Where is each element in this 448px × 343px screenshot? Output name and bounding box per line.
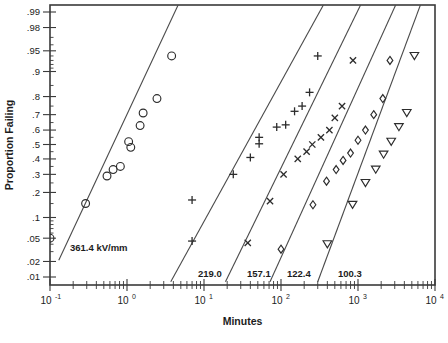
y-tick-label: .9 xyxy=(32,66,40,77)
data-points-group xyxy=(46,52,419,253)
x-axis-ticks-group: 10-1100101102103104 xyxy=(40,279,444,306)
data-point-diamond xyxy=(363,126,369,134)
data-point-circle xyxy=(109,166,117,174)
y-tick-label: .4 xyxy=(32,153,40,164)
data-point-triangle-down xyxy=(371,166,380,173)
y-tick-label: .6 xyxy=(32,124,40,135)
x-tick-exponent: 4 xyxy=(440,293,444,300)
x-tick-label: 10 xyxy=(348,295,360,306)
y-tick-label: .8 xyxy=(32,91,40,102)
data-point-plus xyxy=(282,121,290,129)
fit-line-2 xyxy=(225,0,364,282)
y-tick-label: .01 xyxy=(27,271,40,282)
data-point-diamond xyxy=(348,149,354,157)
data-point-plus xyxy=(273,123,281,131)
data-point-triangle-down xyxy=(402,110,411,117)
data-point-plus xyxy=(314,52,322,60)
series-label-3: 122.4 xyxy=(287,268,311,279)
series-labels-group: 361.4 kV/mm219.0157.1122.4100.3 xyxy=(70,242,362,279)
y-tick-label: .05 xyxy=(27,233,40,244)
data-point-triangle-down xyxy=(387,138,396,145)
data-point-plus xyxy=(255,133,263,141)
data-point-plus xyxy=(188,196,196,204)
data-point-triangle-down xyxy=(348,201,357,208)
data-point-plus xyxy=(291,107,299,115)
fit-lines-group xyxy=(59,0,423,282)
y-tick-label: .2 xyxy=(32,187,40,198)
data-point-diamond xyxy=(310,201,316,209)
data-point-diamond xyxy=(371,111,377,119)
y-tick-label: .95 xyxy=(27,45,40,56)
x-axis-title: Minutes xyxy=(223,315,263,327)
data-point-triangle-down xyxy=(361,179,370,186)
data-point-plus xyxy=(246,153,254,161)
data-point-plus xyxy=(229,170,237,178)
data-point-plus xyxy=(298,102,306,110)
data-point-cross xyxy=(339,103,345,109)
series-label-4: 100.3 xyxy=(338,268,362,279)
data-point-circle xyxy=(103,172,111,180)
series-4-points xyxy=(323,53,419,248)
series-1-points xyxy=(188,52,322,245)
probability-plot: .99.98.95.9.8.7.6.5.4.3.2.1.05.02.01 10-… xyxy=(0,0,448,343)
data-point-cross xyxy=(267,198,273,204)
data-point-triangle-down xyxy=(410,53,419,60)
x-tick-exponent: -1 xyxy=(55,293,61,300)
data-point-circle xyxy=(168,52,176,60)
data-point-diamond xyxy=(324,177,330,185)
x-tick-exponent: 3 xyxy=(363,293,367,300)
series-3-points xyxy=(278,56,393,253)
data-point-cross xyxy=(280,171,286,177)
data-point-cross xyxy=(309,141,315,147)
series-label-1: 219.0 xyxy=(198,268,222,279)
x-tick-label: 10 xyxy=(40,295,52,306)
data-point-triangle-down xyxy=(379,151,388,158)
series-label-0: 361.4 kV/mm xyxy=(70,242,128,253)
y-axis-ticks-group: .99.98.95.9.8.7.6.5.4.3.2.1.05.02.01 xyxy=(27,6,56,282)
x-tick-label: 10 xyxy=(425,295,437,306)
x-tick-label: 10 xyxy=(271,295,283,306)
y-tick-label: .98 xyxy=(27,22,40,33)
series-2-points xyxy=(245,57,356,246)
data-point-triangle-down xyxy=(395,124,404,131)
data-point-circle xyxy=(153,95,161,103)
y-tick-label: .99 xyxy=(27,6,40,17)
chart-page: .99.98.95.9.8.7.6.5.4.3.2.1.05.02.01 10-… xyxy=(0,0,448,343)
data-point-plus xyxy=(306,88,314,96)
series-0-points xyxy=(46,52,175,242)
series-label-2: 157.1 xyxy=(247,268,271,279)
y-axis-title: Proportion Failing xyxy=(3,100,15,190)
data-point-diamond xyxy=(387,56,393,64)
data-point-cross xyxy=(245,240,251,246)
data-point-cross xyxy=(318,134,324,140)
y-tick-label: .02 xyxy=(27,256,40,267)
data-point-diamond xyxy=(333,166,339,174)
fit-line-1 xyxy=(171,0,328,282)
data-point-circle xyxy=(116,163,124,171)
fit-line-0 xyxy=(59,0,182,260)
y-tick-label: .3 xyxy=(32,169,40,180)
data-point-diamond xyxy=(340,156,346,164)
fit-line-3 xyxy=(270,0,399,282)
data-point-cross xyxy=(350,57,356,63)
data-point-circle xyxy=(139,109,147,117)
x-tick-label: 10 xyxy=(194,295,206,306)
x-tick-label: 10 xyxy=(117,295,129,306)
data-point-cross xyxy=(295,156,301,162)
x-tick-exponent: 0 xyxy=(132,293,136,300)
x-tick-exponent: 1 xyxy=(209,293,213,300)
data-point-cross xyxy=(326,127,332,133)
data-point-cross xyxy=(332,115,338,121)
y-tick-label: .1 xyxy=(32,212,40,223)
data-point-cross xyxy=(303,149,309,155)
y-tick-label: .7 xyxy=(32,109,40,120)
data-point-circle xyxy=(136,122,144,130)
data-point-diamond xyxy=(355,136,361,144)
y-tick-label: .5 xyxy=(32,139,40,150)
x-tick-exponent: 2 xyxy=(286,293,290,300)
